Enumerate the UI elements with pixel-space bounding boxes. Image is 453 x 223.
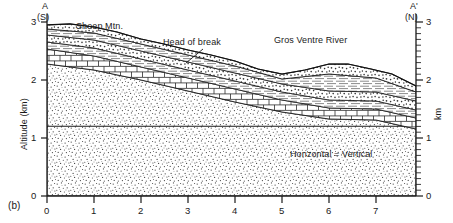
endpoint-direction-right: (N) [405,13,418,22]
annotation-sheep-mtn: Sheep Mtn. [76,22,123,31]
endpoint-label-left: A [42,2,48,11]
geology-body [47,24,416,196]
geologic-cross-section-figure: A (S) A' (N) Altitude (km) km 0 1 2 3 0 … [0,0,453,223]
x-tick-1: 1 [91,206,96,216]
x-tick-5: 5 [279,206,284,216]
y-tick-left-1: 1 [31,133,36,143]
annotation-head-of-break: Head of break [163,38,221,47]
cross-section-drawing [0,0,453,223]
annotation-gros-ventre-river: Gros Ventre River [274,36,347,45]
endpoint-label-right: A' [410,2,418,11]
annotation-scale-note: Horizontal = Vertical [290,150,372,159]
y-tick-left-3: 3 [31,17,36,27]
y-tick-right-3: 3 [426,17,431,27]
x-tick-3: 3 [185,206,190,216]
y-tick-right-2: 2 [426,75,431,85]
x-tick-0: 0 [44,206,49,216]
y-tick-right-1: 1 [426,133,431,143]
x-tick-7: 7 [373,206,378,216]
y-tick-right-0: 0 [426,191,431,201]
y-axis-right-title: km [434,108,443,120]
y-tick-left-2: 2 [31,75,36,85]
endpoint-direction-left: (S) [37,13,49,22]
x-tick-6: 6 [326,206,331,216]
y-axis-right-minor-ticks [416,28,421,190]
x-tick-2: 2 [138,206,143,216]
x-axis-major-ticks [47,196,376,203]
y-axis-left-title: Altitude (km) [20,98,29,150]
x-tick-4: 4 [232,206,237,216]
panel-label: (b) [8,201,21,211]
y-axis-left-major-ticks [41,22,47,196]
y-tick-left-0: 0 [31,191,36,201]
